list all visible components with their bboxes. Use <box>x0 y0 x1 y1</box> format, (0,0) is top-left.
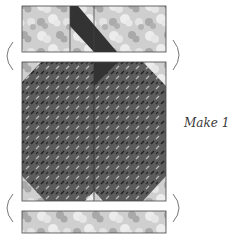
bottom-right-bracket <box>173 194 179 222</box>
make-count-label: Make 1 <box>184 116 229 130</box>
bottom-left-bracket <box>7 194 13 222</box>
top-left-bracket <box>7 42 13 70</box>
top-strip <box>22 6 166 52</box>
main-block <box>22 62 166 201</box>
top-right-bracket <box>173 40 179 70</box>
bottom-strip <box>22 211 166 233</box>
